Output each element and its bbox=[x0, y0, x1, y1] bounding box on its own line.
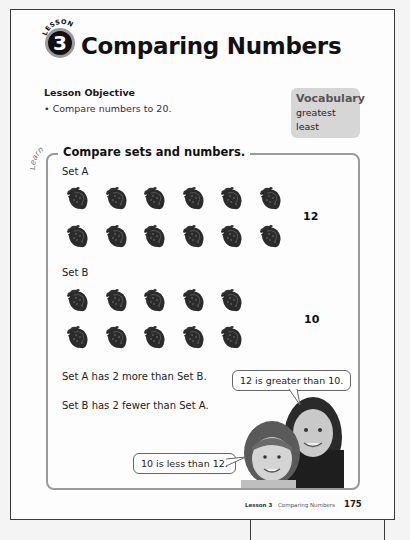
vocabulary-word: least bbox=[296, 120, 355, 134]
vocabulary-box: Vocabulary greatest least bbox=[291, 88, 360, 138]
speech-bubble-tail bbox=[288, 389, 304, 407]
strawberry-icon bbox=[64, 287, 90, 313]
adjacent-page-edge bbox=[250, 520, 385, 540]
learn-title: Compare sets and numbers. bbox=[58, 145, 250, 159]
speech-bubble-tail bbox=[226, 455, 248, 469]
strawberry-icon bbox=[103, 324, 129, 350]
speech-bubble-less: 10 is less than 12. bbox=[133, 453, 236, 474]
strawberry-icon bbox=[141, 223, 167, 249]
strawberry-icon bbox=[141, 324, 167, 350]
vocabulary-word: greatest bbox=[296, 106, 355, 120]
strawberry-icon bbox=[180, 223, 206, 249]
speech-bubble-greater: 12 is greater than 10. bbox=[232, 370, 351, 391]
strawberry-icon bbox=[180, 185, 206, 211]
strawberry-icon bbox=[103, 223, 129, 249]
footer-lesson-title: Comparing Numbers bbox=[278, 502, 335, 508]
set-b-row-1 bbox=[64, 287, 244, 313]
set-a-label: Set A bbox=[62, 166, 88, 177]
vocabulary-heading: Vocabulary bbox=[296, 92, 355, 106]
strawberry-icon bbox=[64, 324, 90, 350]
set-b-row-2 bbox=[64, 324, 244, 350]
svg-text:Learn: Learn bbox=[30, 145, 45, 170]
objective-heading: Lesson Objective bbox=[44, 87, 135, 98]
children-photo bbox=[236, 395, 358, 488]
strawberry-icon bbox=[218, 287, 244, 313]
strawberry-icon bbox=[180, 324, 206, 350]
strawberry-icon bbox=[141, 287, 167, 313]
strawberry-icon bbox=[218, 324, 244, 350]
set-a-row-1 bbox=[64, 185, 283, 211]
strawberry-icon bbox=[64, 223, 90, 249]
page-number: 175 bbox=[344, 499, 362, 509]
comparison-statement: Set B has 2 fewer than Set A. bbox=[62, 400, 209, 411]
set-b-label: Set B bbox=[62, 267, 88, 278]
strawberry-icon bbox=[180, 287, 206, 313]
set-a-row-2 bbox=[64, 223, 283, 249]
strawberry-icon bbox=[103, 287, 129, 313]
strawberry-icon bbox=[218, 223, 244, 249]
objective-item: • Compare numbers to 20. bbox=[44, 103, 171, 114]
lesson-badge: LESSON 3 bbox=[40, 18, 84, 62]
strawberry-icon bbox=[64, 185, 90, 211]
objective-text: Compare numbers to 20. bbox=[53, 103, 172, 114]
lesson-number: 3 bbox=[45, 28, 75, 58]
page-title: Comparing Numbers bbox=[81, 33, 341, 59]
strawberry-icon bbox=[141, 185, 167, 211]
strawberry-icon bbox=[257, 185, 283, 211]
comparison-statement: Set A has 2 more than Set B. bbox=[62, 371, 207, 382]
strawberry-icon bbox=[218, 185, 244, 211]
learn-tag: Learn bbox=[30, 140, 60, 170]
strawberry-icon bbox=[103, 185, 129, 211]
strawberry-icon bbox=[257, 223, 283, 249]
footer-lesson-label: Lesson 3 bbox=[245, 502, 272, 508]
set-b-count: 10 bbox=[304, 313, 319, 326]
set-a-count: 12 bbox=[303, 210, 318, 223]
